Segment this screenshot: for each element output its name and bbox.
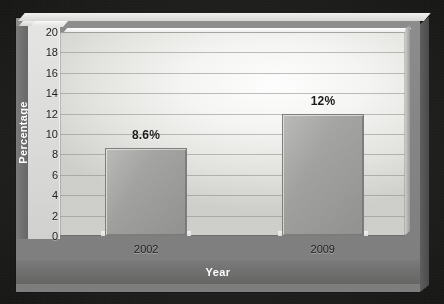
chart-panel-right-face xyxy=(420,17,429,292)
y-axis-tick-label: 12 xyxy=(46,109,58,120)
x-axis-title: Year xyxy=(206,266,231,278)
y-axis-tick-label: 2 xyxy=(52,211,58,222)
plot-right-bevel xyxy=(405,25,410,235)
x-axis-category-label-2009: 2009 xyxy=(311,243,335,255)
chart-panel-top-face xyxy=(18,13,431,21)
gridline xyxy=(60,52,405,53)
y-axis-tick-label: 0 xyxy=(52,231,58,242)
bar-sheen xyxy=(283,115,363,235)
x-axis-title-band: Year xyxy=(16,260,420,284)
x-axis-category-label-2002: 2002 xyxy=(134,243,158,255)
y-axis-ticks: 02468101214161820 xyxy=(32,32,58,236)
bar-2009[interactable] xyxy=(282,114,364,236)
y-axis-tick-label: 8 xyxy=(52,149,58,160)
gridline xyxy=(60,93,405,94)
plot-area-wrap: 8.6%12% xyxy=(60,32,405,236)
y-axis-tick-label: 6 xyxy=(52,170,58,181)
y-axis-tick-label: 16 xyxy=(46,68,58,79)
bar-value-label-2009: 12% xyxy=(311,94,336,108)
y-axis-tick-label: 18 xyxy=(46,47,58,58)
bar-2002[interactable] xyxy=(105,148,187,236)
chart-card: Percentage 02468101214161820 8.6%12% 200… xyxy=(16,10,430,292)
y-axis-tick-label: 10 xyxy=(46,129,58,140)
bar-value-label-2002: 8.6% xyxy=(132,128,160,142)
y-axis-tick-label: 14 xyxy=(46,88,58,99)
y-axis-tick-label: 4 xyxy=(52,190,58,201)
bar-sheen xyxy=(106,149,186,235)
gridline xyxy=(60,73,405,74)
gridline xyxy=(60,32,405,33)
plot-area: 8.6%12% xyxy=(60,32,405,236)
y-axis-tick-label: 20 xyxy=(46,27,58,38)
chart-figure: Percentage 02468101214161820 8.6%12% 200… xyxy=(0,0,444,304)
